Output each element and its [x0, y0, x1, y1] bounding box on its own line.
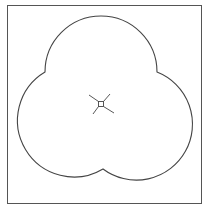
trefoil-diagram — [0, 0, 209, 208]
trefoil-outline — [17, 16, 192, 180]
